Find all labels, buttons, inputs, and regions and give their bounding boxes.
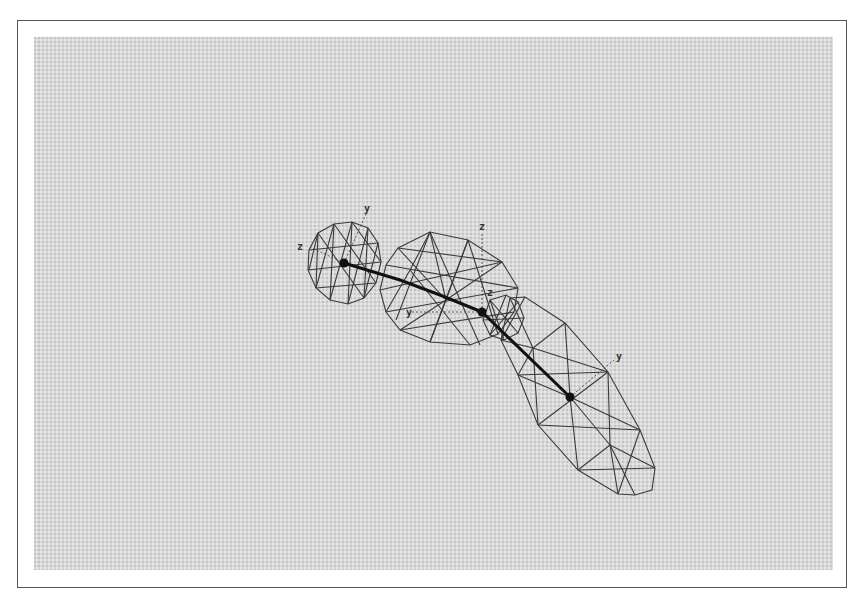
middle-y-label: y [406,307,412,318]
bone-2 [482,312,570,397]
wireframe-scene: y z z z y y [0,0,862,604]
joint-z-label: z [487,287,493,298]
lower-y-label: y [616,351,622,362]
joint-3[interactable] [566,393,575,402]
lower-y-axis [570,360,614,397]
joint-1[interactable] [340,259,349,268]
middle-z-label: z [479,221,485,232]
joint-2[interactable] [478,308,487,317]
head-y-label: y [364,203,370,214]
bone-chain [344,263,570,397]
lower-segment [501,297,655,495]
head-z-label: z [297,241,303,252]
